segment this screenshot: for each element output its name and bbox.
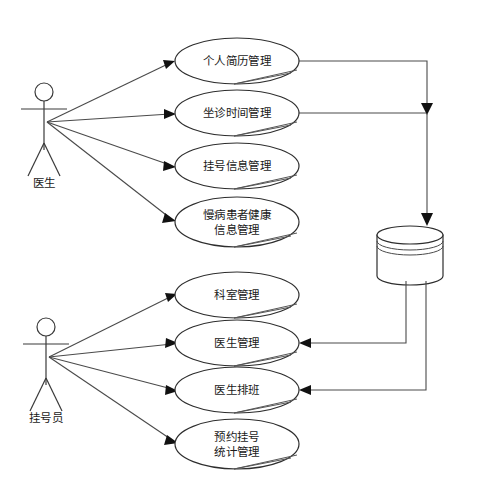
actor-leg-right-icon [46, 378, 62, 411]
association-doctor-uc4[interactable] [47, 122, 170, 218]
use-case-uc7[interactable]: 医生排班 [175, 367, 299, 413]
dataflow-group-to-database [299, 61, 433, 226]
dataflow-database-uc7[interactable] [305, 281, 426, 390]
use-case-label-line1: 慢病患者健康 [203, 208, 271, 222]
use-case-diagram: 医生 挂号员 [0, 0, 496, 493]
use-case-uc3[interactable]: 挂号信息管理 [175, 143, 299, 189]
actor-doctor[interactable]: 医生 [21, 83, 67, 190]
diagram-canvas: 医生 挂号员 [0, 0, 496, 493]
use-case-label: 科室管理 [214, 288, 260, 302]
use-case-label: 坐诊时间管理 [203, 106, 271, 120]
association-registrar-uc6[interactable] [49, 344, 172, 357]
association-registrar-uc8[interactable] [49, 357, 172, 440]
use-case-uc1[interactable]: 个人简历管理 [175, 38, 299, 84]
actor-doctor-label: 医生 [33, 176, 56, 190]
database-top-icon [377, 226, 443, 244]
arrowhead-database-uc6 [299, 338, 311, 348]
use-case-label: 医生管理 [214, 336, 260, 350]
association-doctor-uc3[interactable] [47, 122, 170, 165]
actor-registrar-label: 挂号员 [29, 411, 64, 425]
use-case-uc4[interactable]: 慢病患者健康 信息管理 [175, 197, 299, 247]
use-case-label-line2: 统计管理 [214, 445, 260, 459]
use-case-uc8[interactable]: 预约挂号 统计管理 [175, 419, 299, 469]
use-case-label: 医生排班 [214, 383, 260, 397]
arrowhead-doctor-uc1 [163, 60, 175, 69]
arrowhead-database-uc7 [299, 385, 311, 395]
use-case-label: 个人简历管理 [203, 54, 271, 68]
use-case-label: 挂号信息管理 [203, 159, 271, 173]
association-group-doctor [47, 60, 176, 223]
association-registrar-uc7[interactable] [49, 357, 172, 389]
association-doctor-uc2[interactable] [47, 114, 170, 122]
actor-leg-left-icon [30, 378, 46, 411]
arrowhead-database-in [421, 213, 433, 226]
use-case-uc2[interactable]: 坐诊时间管理 [175, 90, 299, 136]
use-case-uc6[interactable]: 医生管理 [175, 320, 299, 366]
arrowhead-doctor-uc2 [164, 109, 176, 119]
use-case-label-line1: 预约挂号 [214, 430, 259, 444]
dataflow-uc1-database[interactable] [299, 61, 427, 104]
datastore-database[interactable] [377, 226, 443, 285]
association-registrar-uc5[interactable] [49, 296, 172, 357]
association-group-registrar [49, 293, 178, 445]
actor-leg-right-icon [44, 143, 60, 176]
actor-head-icon [35, 83, 53, 101]
dataflow-database-uc6[interactable] [305, 281, 406, 343]
association-doctor-uc1[interactable] [47, 63, 170, 122]
arrowhead-doctor-uc3 [163, 161, 176, 171]
actor-head-icon [37, 318, 55, 336]
actor-registrar[interactable]: 挂号员 [23, 318, 69, 425]
use-case-label-line2: 信息管理 [214, 223, 260, 237]
use-case-uc5[interactable]: 科室管理 [175, 272, 299, 318]
arrowhead-doctor-uc4 [162, 213, 176, 223]
actor-leg-left-icon [28, 143, 44, 176]
dataflow-group-from-database [299, 281, 426, 395]
